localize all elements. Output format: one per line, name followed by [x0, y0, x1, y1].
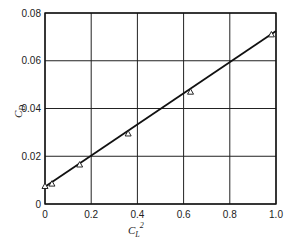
y-axis-label: CD: [12, 105, 27, 118]
x-tick-label: 0.6: [177, 209, 191, 220]
cd-vs-cl2-chart: 00.020.040.060.08 00.20.40.60.81.0 CD CL…: [0, 0, 299, 245]
x-tick-label: 0.4: [130, 209, 144, 220]
x-axis-label: CL2: [128, 221, 144, 239]
x-tick-label: 0.2: [84, 209, 98, 220]
y-tick-label: 0.08: [22, 8, 42, 19]
y-tick-label: 0: [35, 199, 41, 210]
x-tick-labels: 00.20.40.60.81.0: [42, 209, 283, 220]
x-tick-label: 1.0: [269, 209, 283, 220]
x-tick-label: 0.8: [223, 209, 237, 220]
x-tick-label: 0: [42, 209, 48, 220]
y-tick-label: 0.06: [22, 55, 42, 66]
y-tick-label: 0.02: [22, 151, 42, 162]
